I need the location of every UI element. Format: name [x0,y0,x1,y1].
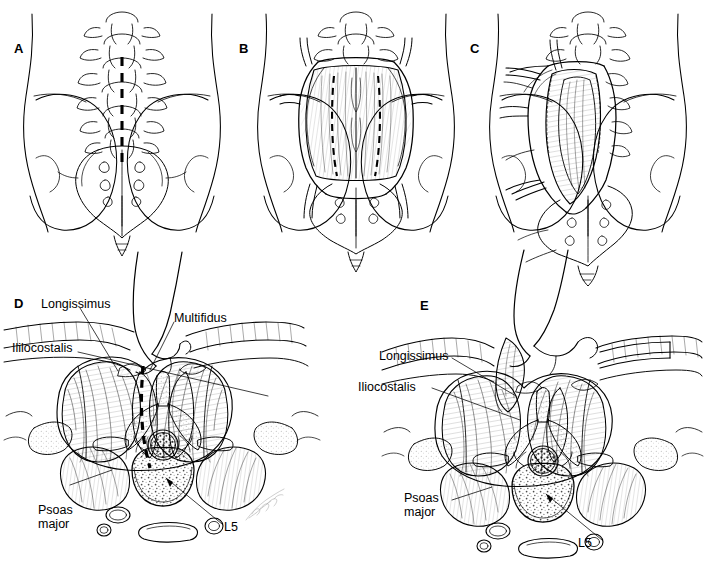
panel-letter-e: E [420,299,429,312]
label-l5-e: L5 [578,536,592,550]
panel-letter-c: C [470,42,479,55]
panel-letter-d: D [14,297,23,310]
leader-multifidus-d [150,322,174,370]
label-longissimus-d: Longissimus [41,297,110,311]
figure-artwork [0,0,704,580]
label-multifidus-d: Multifidus [174,311,227,325]
label-psoas-major-e: Psoas major [404,491,439,519]
label-iliocostalis-d: Ililocostalis [12,341,72,355]
panel-letter-b: B [239,42,248,55]
panel-a-artwork [23,12,220,256]
panel-letter-a: A [14,42,23,55]
panel-c-artwork [489,12,686,286]
label-l5-d: L5 [224,520,238,534]
anatomical-figure: A B C D E Longissimus Ililocostalis Mult… [0,0,704,580]
label-longissimus-e: Longissimus [379,349,448,363]
label-iliocostalis-e: Iliocostalis [358,380,416,394]
panel-d-artwork [4,252,320,542]
panel-b-artwork [257,12,454,272]
label-psoas-major-d: Psoas major [38,503,73,531]
